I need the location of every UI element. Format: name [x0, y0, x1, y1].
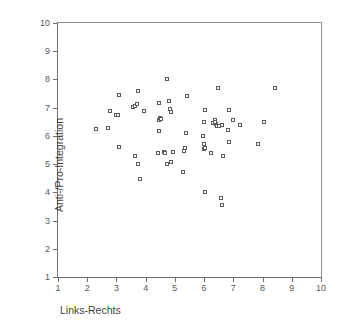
y-tick-label: 10	[40, 19, 50, 28]
x-tick-mark	[292, 277, 293, 282]
data-point	[94, 127, 98, 131]
data-point	[117, 93, 121, 97]
x-tick-mark	[263, 277, 264, 282]
data-point	[117, 145, 121, 149]
data-point	[171, 150, 175, 154]
data-point	[273, 86, 277, 90]
x-tick-label: 8	[260, 284, 265, 293]
data-point	[201, 134, 205, 138]
data-point	[231, 118, 235, 122]
data-point	[221, 154, 225, 158]
x-tick-mark	[233, 277, 234, 282]
data-point	[116, 113, 120, 117]
x-tick-label: 1	[55, 284, 60, 293]
y-tick-label: 2	[45, 244, 50, 253]
x-tick-mark	[58, 277, 59, 282]
y-tick-label: 6	[45, 131, 50, 140]
data-point	[227, 108, 231, 112]
data-point	[136, 162, 140, 166]
x-tick-label: 2	[85, 284, 90, 293]
data-point	[262, 120, 266, 124]
data-point	[220, 123, 224, 127]
x-tick-mark	[321, 277, 322, 282]
data-point	[202, 120, 206, 124]
x-tick-label: 4	[143, 284, 148, 293]
data-point	[156, 151, 160, 155]
data-point	[165, 77, 169, 81]
x-axis-title: Links-Rechts	[60, 304, 121, 316]
x-tick-label: 6	[202, 284, 207, 293]
x-tick-label: 5	[172, 284, 177, 293]
scatter-plot-figure: 12345678910 12345678910 Anti-/Pro-Integr…	[0, 0, 339, 330]
x-tick-label: 9	[289, 284, 294, 293]
y-tick-label: 3	[45, 216, 50, 225]
data-point	[203, 190, 207, 194]
data-point	[159, 117, 163, 121]
data-points-layer	[58, 23, 321, 277]
data-point	[169, 110, 173, 114]
y-tick-label: 9	[45, 47, 50, 56]
y-tick-label: 8	[45, 75, 50, 84]
data-point	[183, 146, 187, 150]
data-point	[108, 109, 112, 113]
data-point	[163, 151, 167, 155]
data-point	[157, 129, 161, 133]
data-point	[219, 196, 223, 200]
data-point	[138, 177, 142, 181]
data-point	[184, 131, 188, 135]
y-tick-label: 7	[45, 103, 50, 112]
data-point	[133, 154, 137, 158]
x-tick-label: 7	[231, 284, 236, 293]
data-point	[185, 94, 189, 98]
x-tick-mark	[146, 277, 147, 282]
x-tick-mark	[87, 277, 88, 282]
data-point	[213, 120, 217, 124]
data-point	[136, 89, 140, 93]
y-tick-label: 1	[45, 273, 50, 282]
data-point	[203, 146, 207, 150]
data-point	[220, 203, 224, 207]
data-point	[157, 101, 161, 105]
y-axis-title: Anti-/Pro-Integration	[53, 118, 65, 212]
data-point	[256, 142, 260, 146]
x-tick-mark	[204, 277, 205, 282]
data-point	[142, 109, 146, 113]
data-point	[181, 170, 185, 174]
data-point	[167, 99, 171, 103]
x-tick-mark	[175, 277, 176, 282]
data-point	[226, 128, 230, 132]
x-tick-label: 10	[316, 284, 326, 293]
data-point	[209, 151, 213, 155]
y-tick-label: 4	[45, 188, 50, 197]
data-point	[227, 140, 231, 144]
data-point	[106, 126, 110, 130]
x-tick-label: 3	[114, 284, 119, 293]
data-point	[216, 86, 220, 90]
x-tick-mark	[116, 277, 117, 282]
data-point	[203, 108, 207, 112]
data-point	[238, 123, 242, 127]
plot-area: 12345678910 12345678910	[57, 22, 322, 278]
y-tick-label: 5	[45, 160, 50, 169]
data-point	[135, 102, 139, 106]
data-point	[169, 160, 173, 164]
